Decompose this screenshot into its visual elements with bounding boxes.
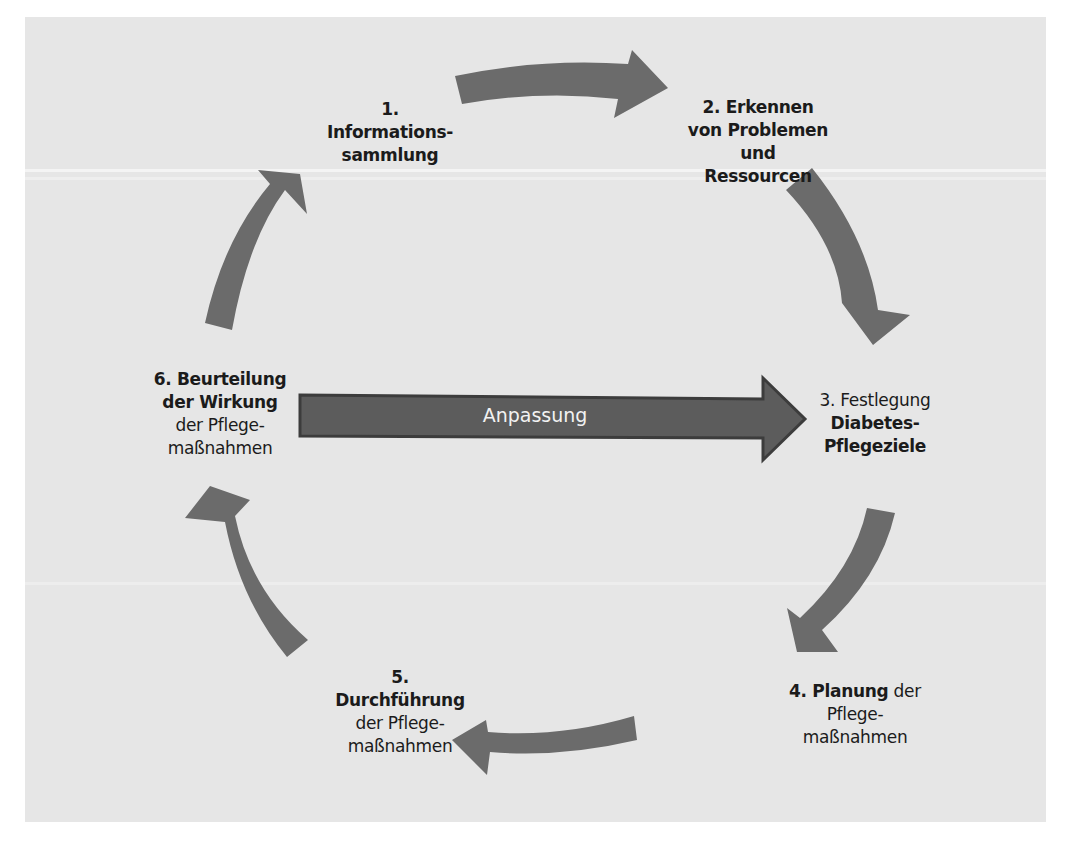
step-5-line: maßnahmen — [310, 735, 490, 758]
step-6-line: 6. Beurteilung — [125, 368, 315, 391]
step-5-line: der Pflege- — [310, 712, 490, 735]
step-2-line: und — [668, 142, 848, 165]
step-6-line: maßnahmen — [125, 437, 315, 460]
step-1-line: 1. — [300, 98, 480, 121]
step-1-line: Informations- — [300, 121, 480, 144]
step-4-normal: der — [889, 681, 921, 701]
step-3-line: Pflegeziele — [790, 435, 960, 458]
anpassung-label: Anpassung — [300, 403, 770, 427]
step-1-informationssammlung: 1. Informations- sammlung — [300, 98, 480, 167]
arrow-step3-to-step4 — [787, 508, 895, 652]
arrow-step2-to-step3 — [786, 168, 910, 345]
step-5-line: 5. — [310, 666, 490, 689]
step-5-line: Durchführung — [310, 689, 490, 712]
step-1-line: sammlung — [300, 144, 480, 167]
step-4-line: Pflege- — [765, 703, 945, 726]
step-6-line: der Wirkung — [125, 391, 315, 414]
step-4-planung: 4. Planung der Pflege- maßnahmen — [765, 680, 945, 749]
step-4-line: 4. Planung der — [765, 680, 945, 703]
step-2-erkennen: 2. Erkennen von Problemen und Ressourcen — [668, 96, 848, 188]
step-3-line: Diabetes- — [790, 412, 960, 435]
step-6-beurteilung: 6. Beurteilung der Wirkung der Pflege- m… — [125, 368, 315, 460]
step-3-line: 3. Festlegung — [790, 389, 960, 412]
step-5-durchfuehrung: 5. Durchführung der Pflege- maßnahmen — [310, 666, 490, 758]
step-2-line: von Problemen — [668, 119, 848, 142]
step-3-festlegung: 3. Festlegung Diabetes- Pflegeziele — [790, 389, 960, 458]
step-2-line: 2. Erkennen — [668, 96, 848, 119]
arrow-step1-to-step2 — [455, 50, 668, 118]
step-4-bold: 4. Planung — [789, 681, 888, 701]
step-4-line: maßnahmen — [765, 726, 945, 749]
arrow-step6-to-step1 — [205, 170, 307, 330]
arrow-step5-to-step6 — [185, 486, 308, 657]
step-2-line: Ressourcen — [668, 165, 848, 188]
step-6-line: der Pflege- — [125, 414, 315, 437]
